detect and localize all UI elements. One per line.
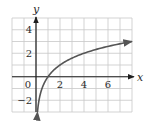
log-function-graph: 024642−2 x y [0, 0, 148, 123]
x-tick-label: 2 [57, 79, 63, 90]
y-tick-label: −2 [17, 95, 32, 106]
x-tick-label: 0 [25, 79, 31, 90]
y-tick-label: 2 [26, 48, 32, 59]
y-axis-label: y [32, 3, 40, 16]
y-tick-label: 4 [26, 24, 32, 35]
x-tick-label: 6 [105, 79, 111, 90]
x-tick-label: 4 [81, 79, 87, 90]
x-axis-label: x [137, 71, 144, 84]
